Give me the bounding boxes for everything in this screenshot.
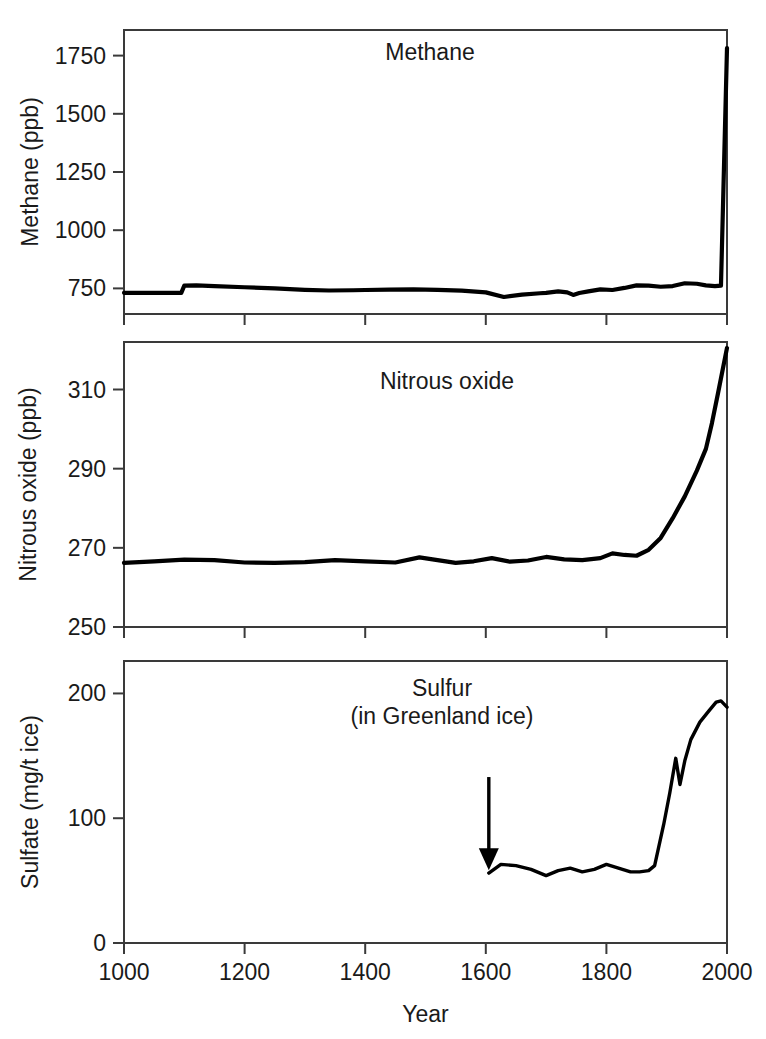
x-tick-label-1000: 1000 [98, 959, 149, 985]
y-tick-label-methane-1500: 1500 [55, 101, 106, 127]
panel-subtitle-sulfur: (in Greenland ice) [351, 703, 534, 729]
panel-methane: 7501000125015001750Methane (ppb)Methane [17, 30, 727, 325]
x-tick-label-1400: 1400 [340, 959, 391, 985]
x-axis-title-group: Year [402, 1001, 449, 1027]
y-tick-label-methane-1000: 1000 [55, 217, 106, 243]
annotation-arrow-sulfur [479, 777, 499, 870]
x-axis-title: Year [402, 1001, 449, 1027]
panel-title-methane: Methane [385, 39, 475, 65]
panel-sulfur: 0100200100012001400160018002000Sulfate (… [17, 661, 753, 985]
y-tick-label-nitrous_oxide-250: 250 [68, 614, 106, 640]
y-tick-label-nitrous_oxide-270: 270 [68, 535, 106, 561]
y-tick-label-sulfur-0: 0 [93, 930, 106, 956]
y-tick-label-methane-1250: 1250 [55, 159, 106, 185]
y-tick-label-nitrous_oxide-310: 310 [68, 377, 106, 403]
panel-nitrous-oxide: 250270290310Nitrous oxide (ppb)Nitrous o… [15, 342, 727, 640]
plot-frame-methane [124, 30, 727, 314]
y-tick-label-sulfur-100: 100 [68, 805, 106, 831]
panel-title-sulfur: Sulfur [412, 675, 472, 701]
y-tick-label-methane-750: 750 [68, 275, 106, 301]
y-axis-title-methane: Methane (ppb) [17, 97, 43, 247]
x-tick-label-1600: 1600 [460, 959, 511, 985]
y-tick-label-methane-1750: 1750 [55, 43, 106, 69]
x-tick-label-2000: 2000 [701, 959, 752, 985]
x-tick-label-1200: 1200 [219, 959, 270, 985]
y-axis-title-nitrous_oxide: Nitrous oxide (ppb) [15, 387, 41, 581]
figure-container: 7501000125015001750Methane (ppb)Methane … [0, 0, 766, 1039]
y-tick-label-sulfur-200: 200 [68, 680, 106, 706]
y-tick-label-nitrous_oxide-290: 290 [68, 456, 106, 482]
data-series-methane [124, 48, 727, 297]
multi-panel-timeseries-chart: 7501000125015001750Methane (ppb)Methane … [0, 0, 766, 1039]
figure-caption [0, 1025, 766, 1039]
y-axis-title-sulfur: Sulfate (mg/t ice) [17, 715, 43, 889]
panel-title-nitrous-oxide: Nitrous oxide [380, 368, 514, 394]
x-tick-label-1800: 1800 [581, 959, 632, 985]
